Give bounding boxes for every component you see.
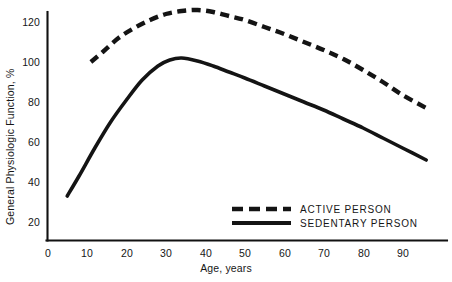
x-tick-label-90: 90 <box>389 248 417 259</box>
y-axis-title: General Physiologic Function, % <box>4 69 16 225</box>
y-tick-label-20: 20 <box>14 217 40 228</box>
y-tick-label-120: 120 <box>14 17 40 28</box>
plot-area <box>0 0 452 282</box>
legend-label-sedentary-person: SEDENTARY PERSON <box>300 218 418 229</box>
x-tick-label-40: 40 <box>192 248 220 259</box>
x-tick-label-70: 70 <box>310 248 338 259</box>
y-tick-label-60: 60 <box>14 137 40 148</box>
series-line-sedentary-person <box>67 58 426 196</box>
y-tick-label-100: 100 <box>14 57 40 68</box>
x-tick-label-30: 30 <box>152 248 180 259</box>
x-tick-label-10: 10 <box>73 248 101 259</box>
x-tick-label-20: 20 <box>113 248 141 259</box>
chart-figure: 120 100 80 60 40 20 0 10 20 30 40 50 60 … <box>0 0 452 282</box>
y-tick-label-80: 80 <box>14 97 40 108</box>
x-tick-label-0: 0 <box>34 248 62 259</box>
x-tick-label-50: 50 <box>231 248 259 259</box>
series-line-active-person <box>91 10 426 108</box>
x-tick-label-60: 60 <box>271 248 299 259</box>
legend-label-active-person: ACTIVE PERSON <box>300 204 392 215</box>
y-tick-label-40: 40 <box>14 177 40 188</box>
x-tick-label-80: 80 <box>350 248 378 259</box>
x-axis-title: Age, years <box>0 262 452 274</box>
